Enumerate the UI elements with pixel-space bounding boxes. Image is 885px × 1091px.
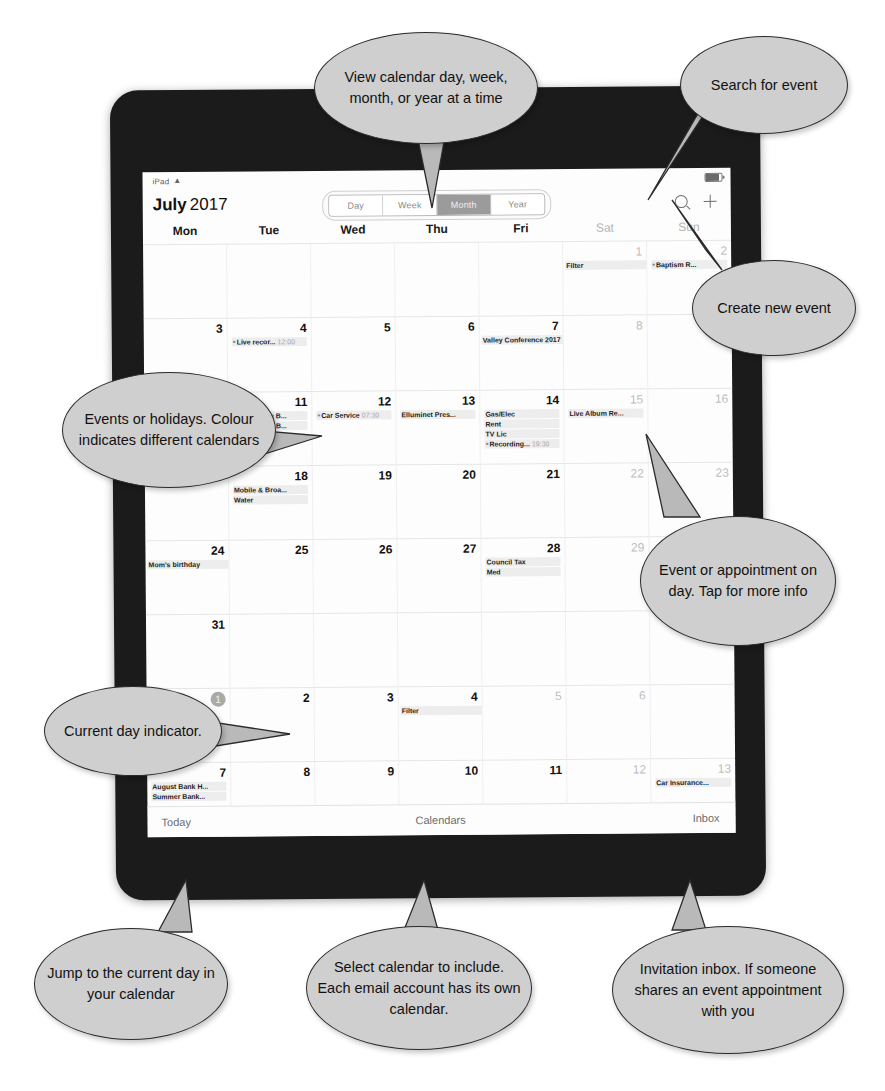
- calendar-day-cell[interactable]: 20: [397, 465, 482, 540]
- day-number: 10: [403, 764, 478, 779]
- calendar-empty-cell: [482, 612, 567, 687]
- view-segmented-outer: DayWeekMonthYear: [322, 189, 551, 221]
- calendar-day-cell[interactable]: 15Live Album Re...: [564, 389, 649, 464]
- current-day-indicator: 1: [211, 692, 226, 707]
- calendar-event[interactable]: Mom's birthday: [148, 559, 230, 569]
- day-number: 11: [487, 763, 562, 778]
- today-button[interactable]: Today: [148, 815, 348, 829]
- calendar-day-cell[interactable]: 1Filter: [563, 241, 648, 316]
- calendar-day-cell[interactable]: 4•Live recor...12:00: [228, 318, 313, 393]
- calendar-day-cell[interactable]: 26: [313, 539, 398, 614]
- calendar-day-cell[interactable]: 5: [483, 686, 568, 761]
- day-number: 15: [568, 392, 643, 407]
- calendar-event[interactable]: Water: [233, 495, 308, 505]
- event-time: 07:30: [362, 411, 380, 418]
- calendar-day-cell[interactable]: 7Valley Conference 2017: [480, 316, 565, 391]
- calendar-event[interactable]: Valley Conference 2017: [482, 334, 564, 344]
- calendar-day-cell[interactable]: 4Filter: [399, 687, 484, 762]
- calendar-day-cell[interactable]: 24Mom's birthday: [145, 541, 230, 616]
- calendar-event[interactable]: Elluminet Pres...: [400, 410, 475, 420]
- calendar-event[interactable]: Live Album Re...: [568, 408, 643, 418]
- calendar-day-cell[interactable]: 14Gas/ElecRentTV Lic•Recording...19:30: [480, 390, 565, 465]
- view-segment-year[interactable]: Year: [491, 194, 544, 214]
- calendar-event[interactable]: Filter: [565, 260, 647, 270]
- navbar-actions: [675, 194, 721, 207]
- callout-view-modes-text: View calendar day, week, month, or year …: [325, 67, 527, 109]
- calendar-day-cell[interactable]: 28Council TaxMed: [481, 538, 566, 613]
- callout-events-colour: Events or holidays. Colour indicates dif…: [62, 372, 276, 488]
- calendar-day-cell[interactable]: 6: [567, 685, 652, 760]
- view-segment-month[interactable]: Month: [437, 195, 491, 215]
- weekday-tue: Tue: [227, 223, 311, 238]
- calendar-event[interactable]: •Live recor...12:00: [232, 337, 307, 347]
- event-title: Car Insurance...: [656, 779, 709, 786]
- day-number: [483, 245, 558, 260]
- view-segment-day[interactable]: Day: [329, 195, 383, 215]
- calendar-day-cell[interactable]: 12•Car Service07:30: [312, 391, 397, 466]
- calendar-day-cell[interactable]: 21: [481, 464, 566, 539]
- calendar-event[interactable]: Rent: [484, 419, 559, 429]
- calendar-day-cell[interactable]: 2: [231, 688, 316, 763]
- view-segment-week[interactable]: Week: [383, 195, 437, 215]
- calendar-event[interactable]: TV Lic: [485, 429, 560, 439]
- weekday-sat: Sat: [563, 220, 647, 235]
- calendar-day-cell[interactable]: 6: [396, 317, 481, 392]
- calendar-month-grid[interactable]: 1Filter2•Baptism R...34•Live recor...12:…: [143, 240, 736, 838]
- day-number: 28: [485, 541, 560, 556]
- calendar-day-cell[interactable]: 22: [565, 463, 650, 538]
- event-title: Summer Bank...: [152, 793, 205, 800]
- day-number: 24: [149, 544, 224, 559]
- calendar-day-cell[interactable]: 25: [229, 540, 314, 615]
- event-title: Live recor...: [237, 338, 276, 345]
- weekday-wed: Wed: [311, 222, 395, 237]
- callout-jump-today: Jump to the current day in your calendar: [34, 928, 228, 1040]
- calendar-event[interactable]: Gas/Elec: [484, 409, 559, 419]
- calendars-button[interactable]: Calendars: [348, 813, 534, 826]
- day-number: 12: [316, 394, 391, 409]
- view-segmented-control-wrap: DayWeekMonthYear: [322, 189, 551, 221]
- calendar-day-cell[interactable]: 19: [313, 465, 398, 540]
- calendar-event[interactable]: •Recording...19:30: [485, 439, 560, 449]
- calendar-event[interactable]: Car Insurance...: [655, 778, 731, 788]
- event-title: Elluminet Pres...: [401, 411, 456, 418]
- day-number: [147, 248, 222, 263]
- calendar-event[interactable]: August Bank H...: [151, 782, 226, 792]
- calendar-day-cell[interactable]: 27: [397, 539, 482, 614]
- calendar-event[interactable]: Council Tax: [486, 557, 561, 567]
- add-event-icon[interactable]: [704, 194, 717, 207]
- inbox-button[interactable]: Inbox: [534, 812, 736, 826]
- day-number: [486, 615, 561, 630]
- day-number: 9: [319, 764, 394, 779]
- day-number: [315, 246, 390, 261]
- day-number: [318, 616, 393, 631]
- calendar-day-cell[interactable]: 18Mobile & Broa...Water: [229, 466, 314, 541]
- day-number: 26: [317, 542, 392, 557]
- calendar-event[interactable]: Filter: [401, 705, 483, 715]
- calendar-day-cell[interactable]: 5: [312, 317, 397, 392]
- day-number: 8: [568, 318, 643, 333]
- day-number: 13: [655, 762, 731, 777]
- calendar-day-cell[interactable]: 31: [146, 615, 231, 690]
- calendar-day-cell[interactable]: 8: [564, 315, 649, 390]
- calendar-empty-cell: [479, 242, 564, 317]
- calendar-event[interactable]: Summer Bank...: [151, 792, 226, 802]
- day-number: 2: [651, 244, 727, 259]
- calendar-event[interactable]: Mobile & Broa...: [233, 485, 308, 495]
- status-spacer: [181, 177, 704, 181]
- calendar-event[interactable]: •Car Service07:30: [316, 410, 391, 420]
- callout-events-colour-text: Events or holidays. Colour indicates dif…: [73, 409, 265, 451]
- event-title: Water: [234, 496, 253, 503]
- day-number: 5: [316, 320, 391, 335]
- event-title: Recording...: [489, 440, 530, 447]
- calendar-event[interactable]: Med: [486, 567, 561, 577]
- calendar-event[interactable]: •Baptism R...: [651, 260, 727, 270]
- day-number: 5: [487, 689, 562, 704]
- callout-event-tap-text: Event or appointment on day. Tap for mor…: [651, 560, 825, 602]
- status-device-label: iPad: [153, 177, 170, 186]
- calendar-day-cell[interactable]: 29: [565, 537, 650, 612]
- view-segmented-control[interactable]: DayWeekMonthYear: [328, 193, 545, 217]
- search-icon[interactable]: [675, 195, 688, 208]
- calendar-day-cell[interactable]: 3: [315, 687, 400, 762]
- calendar-day-cell[interactable]: 13Elluminet Pres...: [396, 391, 481, 466]
- calendar-day-cell[interactable]: 16: [648, 389, 733, 464]
